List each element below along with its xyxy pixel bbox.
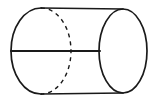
bottom-side-line	[41, 93, 123, 94]
right-base-ellipse	[99, 9, 147, 93]
top-side-line	[41, 8, 123, 9]
cylinder-figure	[0, 0, 157, 104]
cylinder-svg-canvas	[0, 0, 157, 104]
